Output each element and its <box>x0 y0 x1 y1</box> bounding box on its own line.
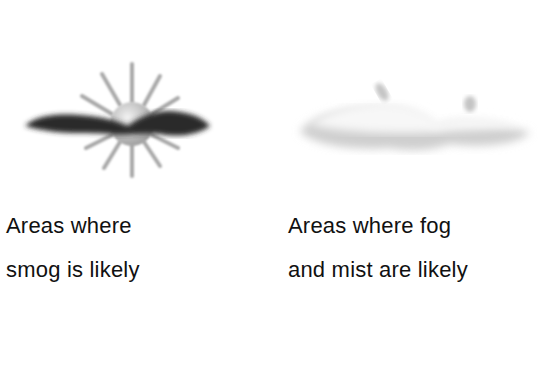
legend-label-fog-mist: Areas where fog and mist are likely <box>288 204 468 292</box>
label-line-2: and mist are likely <box>288 248 468 292</box>
legend-label-smog: Areas where smog is likely <box>6 204 140 292</box>
fog-mist-icon <box>290 70 540 160</box>
label-line-1: Areas where <box>6 204 140 248</box>
label-line-2: smog is likely <box>6 248 140 292</box>
smog-icon <box>20 50 220 180</box>
label-line-1: Areas where fog <box>288 204 468 248</box>
